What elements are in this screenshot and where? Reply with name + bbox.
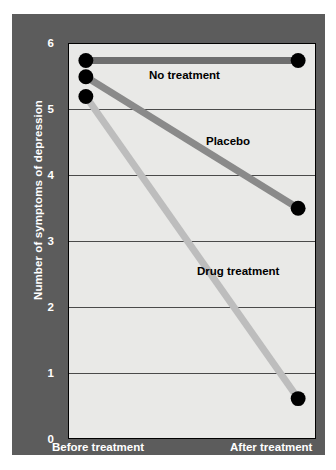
data-point-marker	[291, 201, 306, 216]
y-axis-tick-label: 1	[36, 367, 54, 379]
data-point-marker	[291, 53, 306, 68]
data-point-marker	[291, 391, 306, 406]
chart-panel: Number of symptoms of depression 6 5 4 3…	[12, 14, 325, 455]
series-label-placebo: Placebo	[206, 135, 250, 147]
x-axis-tick-label: After treatment	[230, 441, 312, 453]
series-label-drug-treatment: Drug treatment	[197, 265, 279, 277]
series-label-no-treatment: No treatment	[149, 69, 220, 81]
y-axis-tick-label: 2	[36, 301, 54, 313]
data-point-marker	[78, 53, 93, 68]
x-axis-tick-label: Before treatment	[52, 441, 144, 453]
y-axis-tick-label: 6	[36, 37, 54, 49]
y-axis-tick-label: 5	[36, 103, 54, 115]
series-lines	[69, 44, 315, 438]
data-point-marker	[78, 69, 93, 84]
y-axis-tick-label: 4	[36, 169, 54, 181]
chart-figure: Number of symptoms of depression 6 5 4 3…	[0, 0, 336, 470]
y-axis-tick-label: 3	[36, 235, 54, 247]
data-point-marker	[78, 89, 93, 104]
plot-area: No treatment Placebo Drug treatment	[68, 43, 316, 439]
